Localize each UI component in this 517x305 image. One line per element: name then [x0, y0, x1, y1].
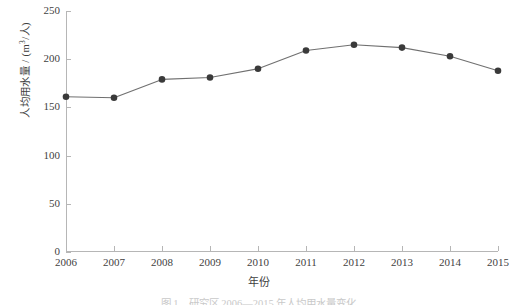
- data-point: [447, 53, 454, 60]
- data-point: [351, 41, 358, 48]
- data-point: [207, 74, 214, 81]
- data-point: [399, 44, 406, 51]
- data-point: [63, 94, 70, 101]
- figure-caption: 图 1 研究区 2006—2015 年人均用水量变化: [0, 297, 517, 305]
- data-point: [159, 76, 166, 83]
- data-point: [111, 95, 118, 102]
- chart-figure: 人均用水量 / (m3/人) 050100150200250 200620072…: [0, 0, 517, 305]
- series-layer: [0, 0, 517, 305]
- x-axis-title: 年份: [0, 273, 517, 289]
- data-point: [303, 47, 310, 54]
- data-point: [255, 66, 262, 73]
- data-line: [66, 45, 498, 98]
- data-point: [495, 68, 502, 75]
